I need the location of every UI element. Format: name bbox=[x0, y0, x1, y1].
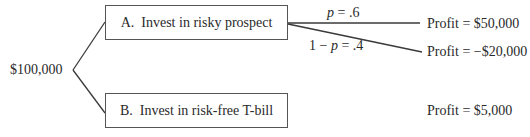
outcome-b: Profit = $5,000 bbox=[427, 103, 512, 119]
probability-success-label: p = .6 bbox=[327, 5, 359, 21]
prob-prefix: 1 − bbox=[309, 38, 331, 53]
outcome-a-success: Profit = $50,000 bbox=[427, 16, 519, 32]
prob-value: = .4 bbox=[338, 38, 363, 53]
prob-value: = .6 bbox=[334, 5, 359, 20]
option-a-label: A. Invest in risky prospect bbox=[121, 15, 273, 31]
decision-tree-diagram: $100,000 A. Invest in risky prospect B. … bbox=[0, 0, 530, 137]
prob-var: p bbox=[327, 5, 334, 20]
outcome-a-failure: Profit = −$20,000 bbox=[427, 44, 527, 60]
option-b-box: B. Invest in risk-free T-bill bbox=[105, 93, 288, 128]
option-b-label: B. Invest in risk-free T-bill bbox=[120, 103, 273, 119]
option-a-box: A. Invest in risky prospect bbox=[105, 5, 288, 40]
root-amount-label: $100,000 bbox=[10, 62, 63, 78]
prob-var: p bbox=[331, 38, 338, 53]
root-to-b-line bbox=[73, 70, 105, 113]
probability-failure-label: 1 − p = .4 bbox=[309, 38, 363, 54]
root-to-a-line bbox=[73, 22, 105, 70]
